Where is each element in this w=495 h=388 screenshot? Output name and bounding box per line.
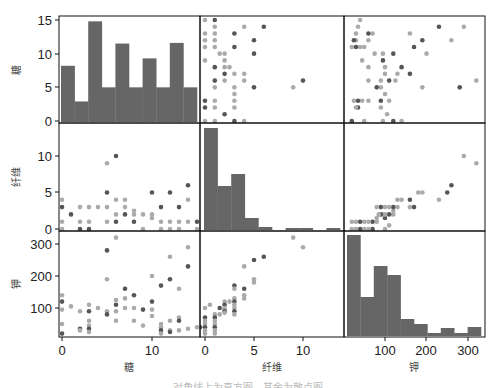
scatter-point — [114, 309, 119, 314]
scatter-point — [262, 24, 267, 29]
scatter-point — [437, 198, 442, 203]
scatter-point — [114, 198, 119, 203]
histogram-bar — [401, 319, 415, 336]
scatter-point — [141, 212, 146, 217]
scatter-point — [213, 38, 218, 43]
histogram-bar — [115, 44, 129, 122]
scatter-point — [213, 65, 218, 70]
scatter-point — [87, 330, 92, 335]
scatter-point — [105, 205, 110, 210]
scatter-point — [60, 205, 65, 210]
scatter-point — [222, 112, 227, 117]
scatter-point — [301, 78, 306, 83]
scatter-point — [399, 198, 404, 203]
scatter-point — [383, 65, 388, 70]
scatter-point — [370, 31, 375, 36]
scatter-point — [213, 18, 218, 23]
x-tick-label: 100 — [374, 343, 396, 358]
scatter-point — [222, 65, 227, 70]
scatter-point — [366, 31, 371, 36]
scatter-point — [203, 18, 208, 23]
scatter-point — [203, 331, 208, 336]
scatter-point — [213, 85, 218, 90]
scatter-point — [203, 99, 208, 104]
x-tick-label: 10 — [296, 343, 310, 358]
scatter-point — [123, 296, 128, 301]
scatter-point — [387, 223, 392, 228]
scatter-point — [242, 72, 247, 77]
panel-1-2 — [350, 154, 479, 235]
histogram-bar — [231, 174, 245, 230]
scatter-point — [360, 99, 365, 104]
scatter-point — [123, 212, 128, 217]
scatter-point — [141, 307, 146, 312]
scatter-point — [232, 99, 237, 104]
scatter-point — [114, 319, 119, 324]
scatter-point — [424, 51, 429, 56]
scatter-point — [420, 38, 425, 43]
scatter-point — [372, 51, 377, 56]
scatter-point — [168, 319, 173, 324]
scatter-point — [177, 287, 182, 292]
scatter-point — [168, 277, 173, 282]
panel-frame — [200, 16, 344, 123]
histogram-bar — [414, 324, 428, 336]
panel-0-0 — [61, 21, 197, 122]
scatter-point — [462, 24, 467, 29]
y-tick-label: 0 — [45, 114, 52, 129]
scatter-point — [387, 212, 392, 217]
scatter-point — [69, 212, 74, 217]
scatter-point — [420, 190, 425, 195]
scatter-point — [141, 323, 146, 328]
scatter-point — [395, 72, 400, 77]
x-tick-label: 10 — [145, 343, 159, 358]
scatter-point — [242, 287, 247, 292]
scatter-point — [150, 216, 155, 221]
scatter-point — [366, 65, 371, 70]
histogram-bar — [218, 186, 232, 230]
scatter-point — [60, 219, 65, 224]
scatter-point — [132, 293, 137, 298]
scatter-point — [213, 31, 218, 36]
scatter-point — [232, 287, 237, 292]
scatter-point — [412, 45, 417, 50]
histogram-bar — [441, 328, 455, 336]
scatter-point — [383, 72, 388, 77]
scatter-point — [150, 299, 155, 304]
scatter-point — [213, 24, 218, 29]
scatter-point — [354, 219, 359, 224]
panel-frame — [200, 231, 344, 337]
scatter-point — [379, 205, 384, 210]
scatter-point — [217, 312, 222, 317]
scatter-point — [350, 45, 355, 50]
scatter-point — [217, 51, 222, 56]
scatter-point — [87, 309, 92, 314]
x-label-sugar: 糖 — [124, 361, 134, 373]
scatter-point — [132, 212, 137, 217]
panel-2-2 — [347, 235, 481, 336]
scatter-point — [222, 311, 227, 316]
scatter-point — [60, 307, 65, 312]
histogram-bar — [427, 333, 441, 336]
scatter-point — [412, 205, 417, 210]
scatter-point — [232, 312, 237, 317]
scatter-point — [252, 258, 257, 263]
histogram-bar — [360, 297, 374, 336]
scatter-point — [387, 78, 392, 83]
figure-caption: ……对角线上为直方图，其余为散点图…… — [0, 381, 495, 388]
scatter-point — [208, 303, 213, 308]
scatter-point — [60, 299, 65, 304]
scatter-point — [159, 283, 164, 288]
scatter-point — [362, 45, 367, 50]
scatter-point — [356, 99, 361, 104]
scatter-point — [132, 219, 137, 224]
scatter-point — [381, 51, 386, 56]
scatter-point — [408, 198, 413, 203]
panel-2-0 — [60, 235, 200, 336]
scatter-point — [132, 319, 137, 324]
scatter-point — [222, 72, 227, 77]
histogram-bar — [258, 227, 272, 230]
scatter-point — [213, 105, 218, 110]
scatter-point — [213, 45, 218, 50]
scatter-point — [203, 58, 208, 63]
